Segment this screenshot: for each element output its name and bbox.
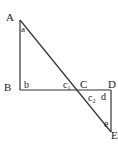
angle-label-c2-subscript: 2 [92, 98, 95, 104]
angle-label-c1-subscript: 1 [67, 85, 70, 91]
vertex-label-b: B [4, 81, 11, 93]
vertex-label-c: C [80, 78, 87, 90]
angle-label-e: e [104, 118, 109, 129]
vertex-label-a: A [6, 11, 14, 23]
vertex-label-d: D [108, 78, 116, 90]
angle-label-b: b [24, 79, 29, 90]
angle-label-d: d [101, 91, 106, 102]
segment-ae [20, 20, 111, 132]
angle-label-c2: c2 [88, 92, 95, 104]
angle-label-a: a [21, 24, 25, 34]
geometry-diagram: A B C D E a b c1 c2 d e [0, 0, 118, 147]
vertex-label-e: E [111, 129, 118, 141]
